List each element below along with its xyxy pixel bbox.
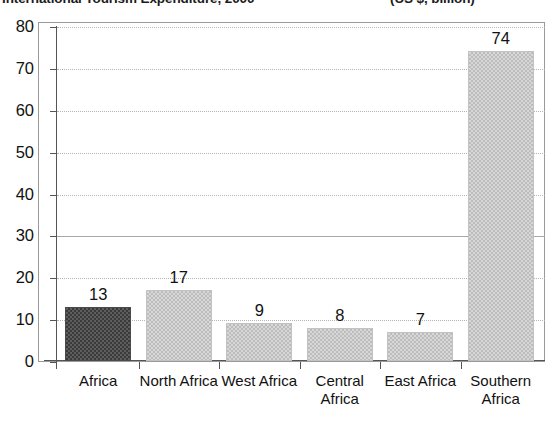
x-axis-tick bbox=[380, 362, 381, 369]
bar bbox=[387, 332, 453, 361]
bar bbox=[146, 290, 212, 361]
y-axis-tick-label: 20 bbox=[4, 269, 34, 285]
bar-value-label: 8 bbox=[310, 307, 370, 324]
bar-value-label: 74 bbox=[471, 30, 531, 47]
chart-title-row: International Tourism Expenditure, 2000 … bbox=[0, 0, 553, 11]
y-axis-tick-label: 80 bbox=[4, 18, 34, 34]
x-axis-category-label: Africa bbox=[58, 372, 139, 390]
chart-units-note: (US $, billion) bbox=[390, 0, 475, 6]
x-axis-tick bbox=[219, 362, 220, 369]
x-axis-label-line: East Africa bbox=[380, 372, 461, 390]
y-axis-tick-label: 10 bbox=[4, 311, 34, 327]
x-axis-ticks bbox=[38, 362, 545, 372]
bar-value-label: 13 bbox=[68, 286, 128, 303]
x-axis-label-line: Central bbox=[300, 372, 381, 390]
bars-layer: 131798774 bbox=[38, 22, 545, 362]
x-axis-tick bbox=[56, 362, 57, 369]
y-axis-labels: 01020304050607080 bbox=[0, 22, 34, 362]
bar-value-label: 9 bbox=[229, 302, 289, 319]
page-title: International Tourism Expenditure, 2000 bbox=[2, 0, 254, 6]
x-axis-label-line: Africa bbox=[58, 372, 139, 390]
x-axis-tick bbox=[300, 362, 301, 369]
bar bbox=[468, 51, 534, 361]
bar-value-label: 17 bbox=[149, 269, 209, 286]
y-axis-tick-label: 40 bbox=[4, 186, 34, 202]
x-axis-label-line: Southern bbox=[461, 372, 542, 390]
bar bbox=[307, 328, 373, 362]
y-axis-tick-label: 60 bbox=[4, 102, 34, 118]
x-axis-label-line: Africa bbox=[461, 390, 542, 408]
x-axis-category-label: East Africa bbox=[380, 372, 461, 390]
x-axis-category-label: West Africa bbox=[219, 372, 300, 390]
x-axis-tick bbox=[139, 362, 140, 369]
x-axis-label-line: North Africa bbox=[139, 372, 220, 390]
y-axis-tick-label: 0 bbox=[4, 353, 34, 369]
bar-value-label: 7 bbox=[390, 311, 450, 328]
x-axis-category-label: North Africa bbox=[139, 372, 220, 390]
x-axis-category-label: SouthernAfrica bbox=[461, 372, 542, 408]
bar bbox=[65, 307, 131, 361]
x-axis-label-line: Africa bbox=[300, 390, 381, 408]
x-axis-category-label: CentralAfrica bbox=[300, 372, 381, 408]
x-axis-label-line: West Africa bbox=[219, 372, 300, 390]
y-axis-tick-label: 50 bbox=[4, 144, 34, 160]
x-axis-tick bbox=[461, 362, 462, 369]
y-axis-tick-label: 70 bbox=[4, 60, 34, 76]
y-axis-tick-label: 30 bbox=[4, 227, 34, 243]
x-axis-labels: AfricaNorth AfricaWest AfricaCentralAfri… bbox=[38, 372, 545, 428]
bar bbox=[226, 323, 292, 361]
